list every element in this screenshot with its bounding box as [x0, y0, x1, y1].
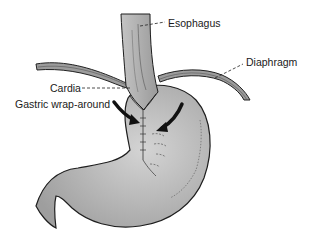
gastric-wrap-label: Gastric wrap-around — [15, 98, 110, 110]
esophagus-label: Esophagus — [168, 17, 221, 29]
cardia-label: Cardia — [50, 82, 81, 94]
esophagus — [121, 14, 158, 110]
stomach-illustration — [0, 0, 312, 248]
diaphragm-label: Diaphragm — [246, 56, 297, 68]
